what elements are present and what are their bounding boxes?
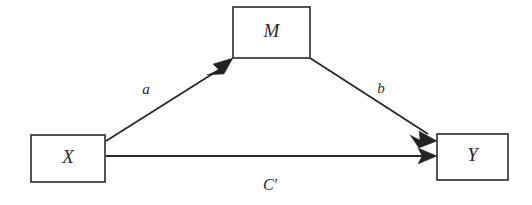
path-label-b: b: [377, 80, 385, 96]
path-label-a: a: [142, 81, 150, 97]
diagram-canvas: X M Y a b C′: [0, 0, 532, 205]
path-a-arrowhead: [207, 58, 233, 75]
path-b-line: [310, 58, 428, 134]
node-label-m: M: [263, 20, 281, 41]
mediation-diagram: X M Y a b C′: [0, 0, 532, 205]
path-b-arrowhead: [410, 131, 437, 148]
path-a-line: [106, 66, 225, 141]
node-label-x: X: [61, 146, 75, 167]
path-label-cprime: C′: [263, 176, 278, 193]
